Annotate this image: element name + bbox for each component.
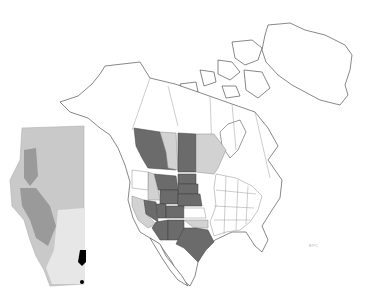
washington-oregon [132, 170, 148, 190]
wyoming [160, 190, 178, 204]
arctic-islands [180, 40, 270, 98]
north-dakota [178, 174, 196, 184]
map-figure: EPC [0, 0, 368, 296]
inset-point-2 [80, 280, 84, 284]
north-america-mainland [60, 62, 282, 286]
south-dakota [178, 184, 198, 194]
scale-label: EPC [309, 243, 319, 248]
saskatchewan [178, 133, 196, 172]
utah [156, 204, 166, 218]
greenland [262, 23, 352, 105]
north-america-map [0, 0, 368, 296]
colorado [166, 206, 184, 218]
nebraska [178, 194, 202, 206]
kansas [184, 208, 206, 218]
